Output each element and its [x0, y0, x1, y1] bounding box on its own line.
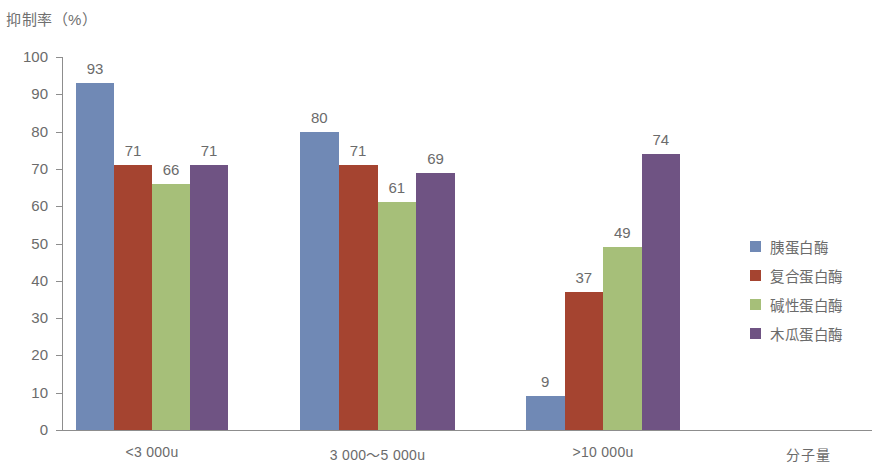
legend-swatch-icon	[750, 270, 761, 281]
legend-item: 碱性蛋白酶	[750, 290, 843, 319]
bar	[416, 173, 455, 430]
bar-value-label: 74	[642, 132, 681, 147]
legend-item: 复合蛋白酶	[750, 261, 843, 290]
legend-swatch-icon	[750, 299, 761, 310]
bar	[300, 132, 339, 430]
y-axis-tick-label: 90	[8, 86, 48, 101]
bar-value-label: 93	[76, 61, 114, 76]
bar-value-label: 9	[526, 374, 565, 389]
y-axis-tick-label: 10	[8, 385, 48, 400]
bar	[526, 396, 565, 430]
y-axis-tick-label: 50	[8, 236, 48, 251]
bar-value-label: 80	[300, 110, 339, 125]
y-axis-tick-label: 20	[8, 347, 48, 362]
bar	[114, 165, 152, 430]
bar-value-label: 71	[190, 143, 228, 158]
bar-chart: 抑制率（%） 1009080706050403020100 9371667180…	[0, 0, 890, 469]
bar-value-label: 71	[339, 143, 378, 158]
y-axis-tick-label: 70	[8, 161, 48, 176]
bar	[642, 154, 681, 430]
bar-value-label: 71	[114, 143, 152, 158]
y-axis-title: 抑制率（%）	[6, 8, 97, 29]
bar	[76, 83, 114, 430]
y-axis-tick-label: 30	[8, 310, 48, 325]
bar	[190, 165, 228, 430]
legend-label: 复合蛋白酶	[770, 265, 843, 286]
y-axis-tick-label: 40	[8, 273, 48, 288]
x-axis-title: 分子量	[786, 444, 831, 464]
bar	[565, 292, 604, 430]
bar-value-label: 66	[152, 162, 190, 177]
legend: 胰蛋白酶复合蛋白酶碱性蛋白酶木瓜蛋白酶	[750, 232, 843, 348]
bar-value-label: 37	[565, 270, 604, 285]
bar	[603, 247, 642, 430]
legend-item: 胰蛋白酶	[750, 232, 843, 261]
legend-swatch-icon	[750, 241, 761, 252]
bar	[339, 165, 378, 430]
bar	[152, 184, 190, 430]
bar-value-label: 49	[603, 225, 642, 240]
legend-item: 木瓜蛋白酶	[750, 319, 843, 348]
legend-label: 碱性蛋白酶	[770, 294, 843, 315]
y-axis-tick-label: 0	[8, 422, 48, 437]
legend-label: 木瓜蛋白酶	[770, 323, 843, 344]
bar	[378, 202, 417, 430]
x-axis-category-label: >10 000u	[466, 444, 740, 460]
legend-swatch-icon	[750, 328, 761, 339]
y-axis-tick	[56, 430, 63, 431]
y-axis-tick-label: 80	[8, 124, 48, 139]
x-axis-line	[62, 430, 872, 431]
bar-value-label: 61	[378, 180, 417, 195]
bar-value-label: 69	[416, 151, 455, 166]
legend-label: 胰蛋白酶	[770, 236, 828, 257]
y-axis-tick-label: 60	[8, 198, 48, 213]
y-axis-tick-label: 100	[8, 49, 48, 64]
